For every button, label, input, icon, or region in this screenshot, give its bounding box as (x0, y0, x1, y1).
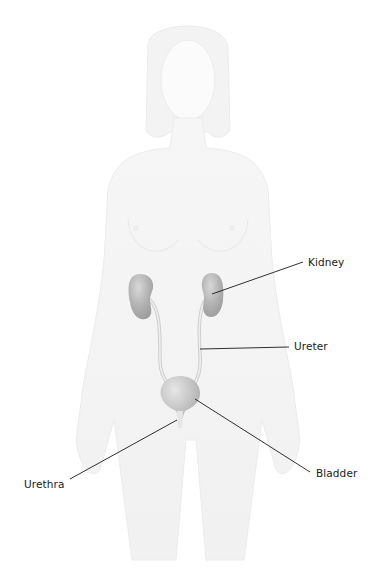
bladder-label: Bladder (316, 468, 357, 479)
urinary-system-diagram: Kidney Ureter Bladder Urethra (0, 0, 376, 568)
ureter-label: Ureter (294, 341, 328, 352)
kidney-label: Kidney (308, 257, 344, 268)
body-silhouette (76, 26, 300, 560)
urethra (177, 411, 183, 428)
urethra-label: Urethra (24, 479, 64, 490)
